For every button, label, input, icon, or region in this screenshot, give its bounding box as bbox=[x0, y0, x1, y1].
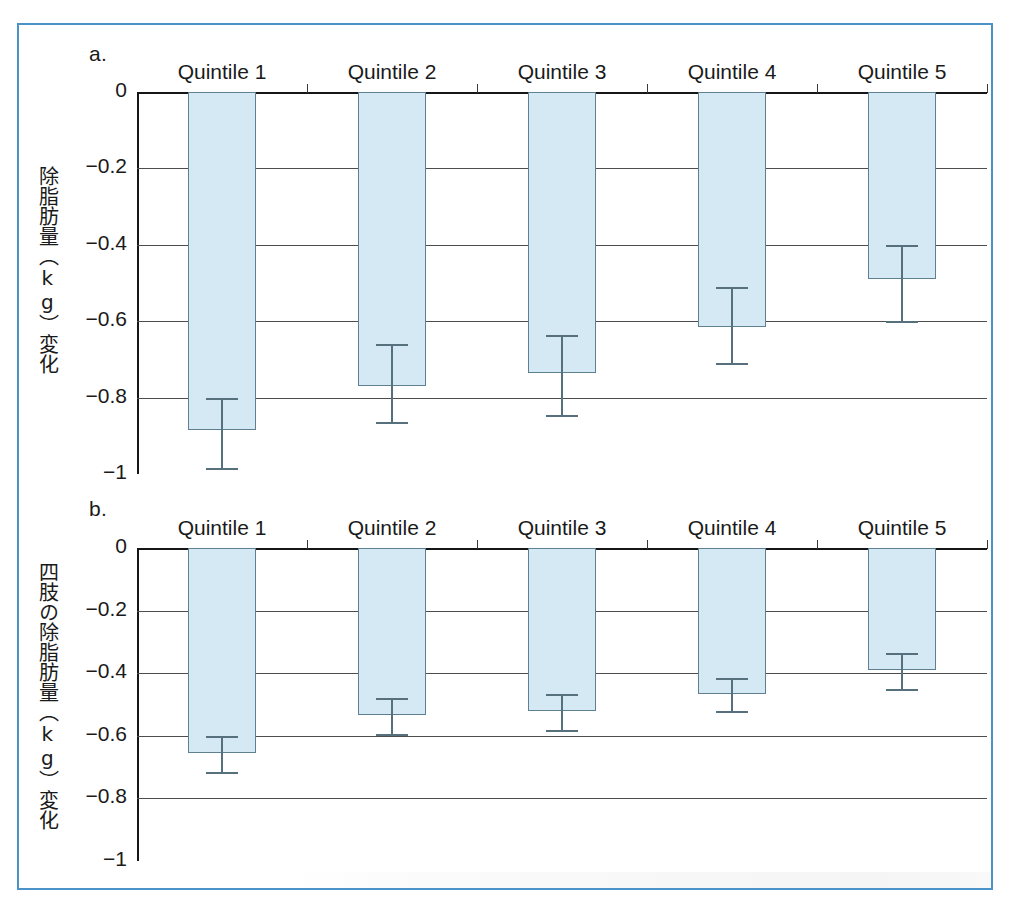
error-bar-cap-lower bbox=[716, 363, 748, 365]
error-bar-line bbox=[221, 736, 223, 772]
bar bbox=[698, 548, 766, 694]
y-tick-label: −0.2 bbox=[57, 597, 127, 621]
error-bar-line bbox=[901, 653, 903, 689]
error-bar-line bbox=[391, 344, 393, 422]
y-tick-label: −0.8 bbox=[57, 384, 127, 408]
x-axis-tick bbox=[817, 540, 818, 549]
bar bbox=[188, 92, 256, 430]
bar bbox=[868, 548, 936, 670]
error-bar-cap-lower bbox=[206, 772, 238, 774]
x-axis-tick bbox=[987, 84, 988, 93]
bar bbox=[358, 92, 426, 386]
bar bbox=[528, 92, 596, 373]
category-label: Quintile 1 bbox=[137, 516, 307, 540]
x-axis-tick bbox=[647, 540, 648, 549]
error-bar-cap-upper bbox=[546, 694, 578, 696]
error-bar-cap-lower bbox=[206, 468, 238, 470]
error-bar-line bbox=[731, 287, 733, 363]
error-bar-cap-upper bbox=[206, 736, 238, 738]
y-axis-line bbox=[137, 548, 139, 861]
error-bar-line bbox=[731, 678, 733, 711]
x-axis-tick bbox=[307, 540, 308, 549]
category-label: Quintile 2 bbox=[307, 516, 477, 540]
category-label: Quintile 3 bbox=[477, 60, 647, 84]
y-tick-label: −1 bbox=[57, 847, 127, 871]
y-tick-label: −0.6 bbox=[57, 722, 127, 746]
error-bar-line bbox=[391, 698, 393, 734]
plot-area-b: 0−0.2−0.4−0.6−0.8−1Quintile 1Quintile 2Q… bbox=[137, 548, 987, 861]
error-bar-line bbox=[221, 398, 223, 469]
category-label: Quintile 3 bbox=[477, 516, 647, 540]
error-bar-cap-upper bbox=[886, 245, 918, 247]
panel-letter-b: b. bbox=[89, 497, 107, 521]
x-axis-tick bbox=[987, 540, 988, 549]
error-bar-cap-upper bbox=[376, 698, 408, 700]
figure-frame: a. 除脂肪量（kg）変化 0−0.2−0.4−0.6−0.8−1Quintil… bbox=[17, 23, 993, 890]
error-bar-cap-lower bbox=[886, 321, 918, 323]
error-bar-cap-lower bbox=[716, 711, 748, 713]
y-tick-label: −0.2 bbox=[57, 154, 127, 178]
error-bar-cap-lower bbox=[886, 689, 918, 691]
error-bar-line bbox=[901, 245, 903, 321]
x-axis-tick bbox=[817, 84, 818, 93]
y-tick-label: 0 bbox=[57, 78, 127, 102]
x-axis-tick bbox=[477, 540, 478, 549]
error-bar-cap-lower bbox=[546, 730, 578, 732]
error-bar-cap-upper bbox=[206, 398, 238, 400]
bar bbox=[528, 548, 596, 711]
bar bbox=[358, 548, 426, 715]
panel-letter-a: a. bbox=[89, 42, 107, 66]
y-tick-label: −0.4 bbox=[57, 231, 127, 255]
y-tick-label: −0.4 bbox=[57, 659, 127, 683]
error-bar-cap-upper bbox=[546, 335, 578, 337]
error-bar-cap-lower bbox=[376, 734, 408, 736]
y-tick-label: −0.6 bbox=[57, 307, 127, 331]
error-bar-line bbox=[561, 335, 563, 415]
error-bar-cap-upper bbox=[886, 653, 918, 655]
error-bar-cap-upper bbox=[716, 678, 748, 680]
x-axis-tick bbox=[647, 84, 648, 93]
x-axis-tick bbox=[307, 84, 308, 93]
error-bar-line bbox=[561, 694, 563, 730]
page-edge-smudge bbox=[19, 872, 991, 888]
error-bar-cap-lower bbox=[376, 422, 408, 424]
y-axis-line bbox=[137, 92, 139, 474]
y-tick-label: 0 bbox=[57, 534, 127, 558]
bar bbox=[188, 548, 256, 753]
y-axis-title-a: 除脂肪量（kg）変化 bbox=[37, 155, 57, 385]
category-label: Quintile 5 bbox=[817, 60, 987, 84]
error-bar-cap-upper bbox=[716, 287, 748, 289]
error-bar-cap-upper bbox=[376, 344, 408, 346]
error-bar-cap-lower bbox=[546, 415, 578, 417]
chart-panel-b: b. 四肢の除脂肪量（kg）変化 0−0.2−0.4−0.6−0.8−1Quin… bbox=[19, 480, 991, 890]
category-label: Quintile 4 bbox=[647, 60, 817, 84]
x-axis-tick bbox=[477, 84, 478, 93]
chart-panel-a: a. 除脂肪量（kg）変化 0−0.2−0.4−0.6−0.8−1Quintil… bbox=[19, 25, 991, 485]
category-label: Quintile 4 bbox=[647, 516, 817, 540]
gridline bbox=[137, 798, 987, 799]
category-label: Quintile 1 bbox=[137, 60, 307, 84]
y-tick-label: −0.8 bbox=[57, 784, 127, 808]
category-label: Quintile 5 bbox=[817, 516, 987, 540]
y-axis-title-b: 四肢の除脂肪量（kg）変化 bbox=[37, 558, 57, 833]
category-label: Quintile 2 bbox=[307, 60, 477, 84]
gridline bbox=[137, 736, 987, 737]
plot-area-a: 0−0.2−0.4−0.6−0.8−1Quintile 1Quintile 2Q… bbox=[137, 92, 987, 474]
